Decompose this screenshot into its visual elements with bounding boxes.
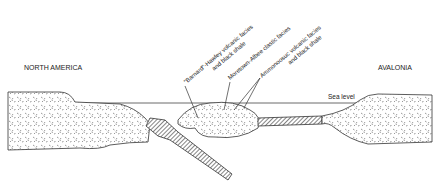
avalonia-crust [322, 94, 432, 144]
sea-level-label: Sea level [328, 93, 355, 100]
leader-line-ammonoosuc-1 [234, 78, 260, 110]
cross-section-diagram: NORTH AMERICA AVALONIA Sea level "Barnar… [0, 0, 441, 184]
leader-line-ammonoosuc-2 [244, 78, 260, 108]
oceanic-crust [258, 116, 322, 126]
facies-label-ammonoosuc: Ammonoosuc volcanic facies [259, 24, 322, 78]
north-america-crust [8, 92, 150, 150]
region-label-north-america: NORTH AMERICA [24, 64, 83, 71]
region-label-avalonia: AVALONIA [378, 64, 412, 71]
facies-label-barnard: "Barnard"-Hawley volcanic facies [183, 24, 254, 85]
island-arc [178, 102, 259, 137]
